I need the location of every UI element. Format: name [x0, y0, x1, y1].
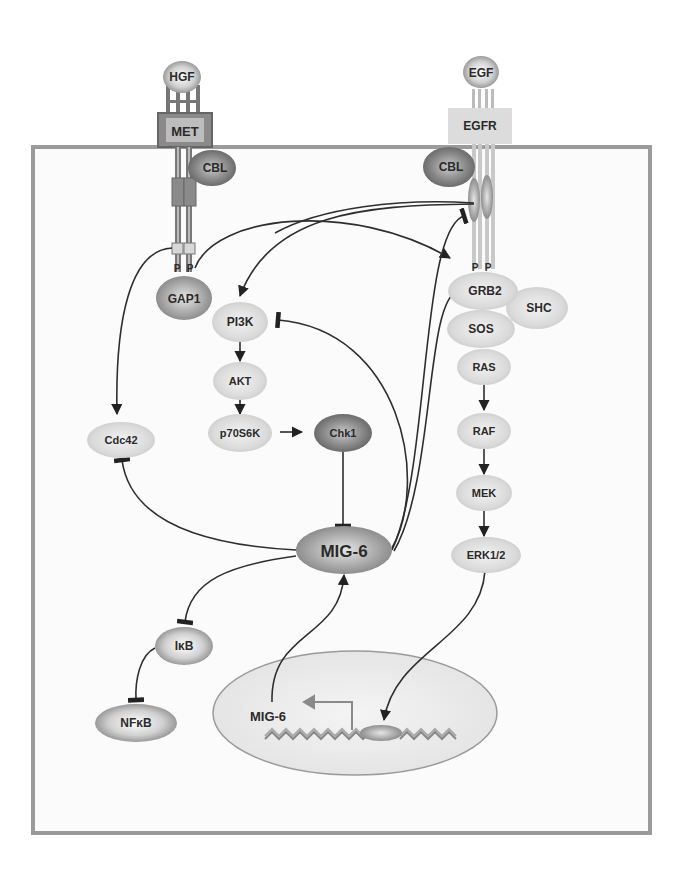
phospho-met-2: P [187, 263, 194, 274]
shc-label: SHC [526, 301, 552, 315]
ikb-label: IκB [175, 639, 194, 653]
ras-label: RAS [472, 361, 495, 373]
cbl-met-label: CBL [203, 161, 228, 175]
chk1-label: Chk1 [330, 427, 357, 439]
phospho-egfr-2: P [485, 262, 492, 273]
sos-label: SOS [468, 322, 493, 336]
mig6-label: MIG-6 [320, 542, 367, 561]
mig6-gene-label: MIG-6 [250, 709, 286, 724]
p70s6k-label: p70S6K [220, 427, 260, 439]
nfkb-label: NFκB [120, 716, 152, 730]
egfr-label: EGFR [463, 119, 497, 133]
cbl-egfr-label: CBL [439, 160, 464, 174]
transcription-factor [360, 725, 402, 741]
raf-label: RAF [473, 425, 496, 437]
pi3k-label: PI3K [227, 315, 254, 329]
akt-label: AKT [229, 375, 252, 387]
egf-label: EGF [469, 66, 494, 80]
phospho-met-1: P [174, 263, 181, 274]
mek-label: MEK [472, 487, 497, 499]
pathway-diagram: HGF MET CBL EGF EGFR CBL [0, 0, 683, 883]
cdc42-label: Cdc42 [104, 434, 137, 446]
hgf-label: HGF [169, 70, 194, 84]
erk-label: ERK1/2 [467, 549, 506, 561]
met-label: MET [171, 124, 199, 139]
gap1-label: GAP1 [168, 292, 201, 306]
phospho-egfr-1: P [472, 262, 479, 273]
grb2-label: GRB2 [468, 284, 502, 298]
